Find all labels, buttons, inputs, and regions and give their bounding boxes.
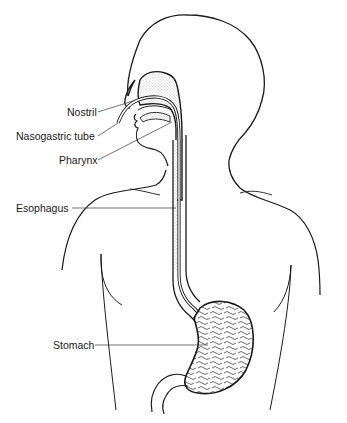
pharynx-leader-line — [98, 122, 172, 160]
nasogastric-tube-path — [118, 97, 208, 328]
right-clavicle — [240, 191, 272, 195]
mouth-chin — [134, 114, 168, 166]
anatomy-diagram: Nostril Nasogastric tube Pharynx Esophag… — [0, 0, 347, 423]
tongue — [140, 112, 170, 122]
tube-leader-line — [98, 123, 118, 136]
label-nasogastric-tube: Nasogastric tube — [16, 130, 95, 142]
label-stomach: Stomach — [53, 339, 94, 351]
duodenum-outer — [151, 374, 186, 412]
label-pharynx: Pharynx — [59, 154, 98, 166]
stomach-shape — [185, 301, 254, 393]
label-nostril: Nostril — [67, 106, 97, 118]
right-arm-inner — [274, 265, 291, 312]
neck-front — [62, 170, 166, 270]
duodenum-inner — [163, 385, 188, 414]
label-esophagus: Esophagus — [16, 202, 69, 214]
neck-back — [229, 160, 320, 295]
esophagus-right-wall — [186, 135, 200, 302]
esophagus-stipple — [174, 140, 177, 270]
left-clavicle — [130, 189, 160, 195]
